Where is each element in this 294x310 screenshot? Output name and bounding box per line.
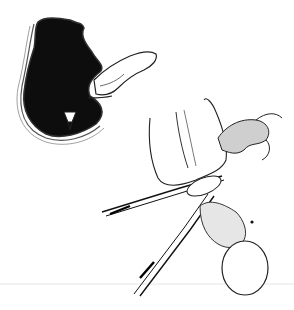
illustration-canvas (0, 0, 294, 310)
forceps (102, 172, 224, 296)
surgical-illustration (0, 0, 294, 310)
tissue-and-sac (200, 202, 268, 295)
sac-balloon (222, 241, 268, 295)
finger-inserting (88, 52, 156, 98)
hand (149, 99, 226, 185)
bowel-loop (218, 114, 282, 160)
sectioned-organ (17, 18, 104, 144)
